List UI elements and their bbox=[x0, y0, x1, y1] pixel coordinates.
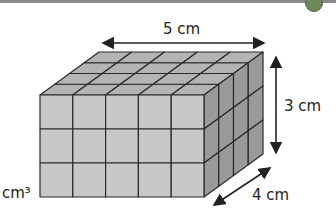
depth-label: 4 cm bbox=[252, 186, 289, 204]
length-label: 5 cm bbox=[163, 20, 200, 38]
height-label: 3 cm bbox=[284, 97, 321, 115]
cuboid bbox=[40, 52, 263, 197]
unit-label: cm³ bbox=[2, 184, 31, 202]
cuboid-diagram: 5 cm 3 cm 4 cm cm³ bbox=[0, 0, 336, 218]
